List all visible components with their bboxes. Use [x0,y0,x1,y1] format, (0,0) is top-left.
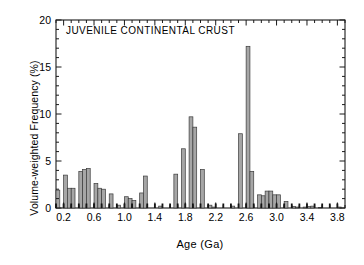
plot-title: JUVENILE CONTINENTAL CRUST [66,25,235,36]
y-tick-label: 0 [45,202,51,214]
x-tick-label: 2.2 [208,211,223,223]
y-tick-label: 15 [39,61,51,73]
x-axis-label: Age (Ga) [55,238,345,250]
histogram-bar [86,169,90,208]
histogram-bar [193,127,197,208]
histogram-bar [189,117,193,208]
x-tick-label: 1.4 [148,211,163,223]
histogram-bar [143,176,147,208]
y-tick-label: 5 [45,155,51,167]
plot-canvas: 051015200.20.61.01.41.82.22.63.03.43.8 [0,0,364,265]
histogram-figure: Volume-weighted Frequency (%) JUVENILE C… [0,0,364,265]
y-axis-label: Volume-weighted Frequency (%) [28,48,40,228]
x-tick-label: 0.6 [87,211,102,223]
histogram-bar [79,171,83,208]
y-tick-label: 20 [39,14,51,26]
histogram-bar [64,175,68,208]
histogram-bar [174,174,178,208]
y-tick-label: 10 [39,108,51,120]
x-tick-label: 1.0 [117,211,132,223]
histogram-bar [181,149,185,208]
histogram-bar [250,171,254,208]
histogram-bar [201,169,205,208]
x-tick-label: 3.4 [300,211,315,223]
x-tick-label: 0.2 [56,211,71,223]
x-tick-label: 2.6 [239,211,254,223]
x-tick-label: 3.8 [330,211,345,223]
histogram-bar [246,46,250,208]
x-tick-label: 3.0 [269,211,284,223]
x-tick-label: 1.8 [178,211,193,223]
y-axis-label-container: Volume-weighted Frequency (%) [4,20,22,205]
histogram-bar [83,169,87,208]
histogram-bar [239,134,243,208]
